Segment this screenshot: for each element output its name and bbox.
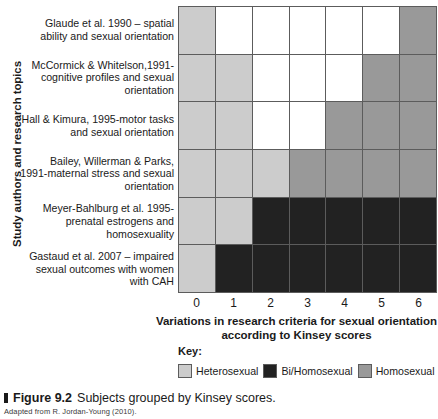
heatmap-cell bbox=[253, 150, 290, 197]
heatmap-cell bbox=[363, 245, 400, 292]
heatmap-cell bbox=[326, 198, 363, 245]
heatmap-cell bbox=[179, 198, 216, 245]
heatmap-cell bbox=[363, 198, 400, 245]
figure-title: Subjects grouped by Kinsey scores. bbox=[77, 391, 276, 405]
source-note: Adapted from R. Jordan-Young (2010). bbox=[4, 407, 137, 416]
x-tick-label: 4 bbox=[326, 296, 363, 314]
legend-swatch bbox=[178, 364, 192, 378]
row-label: Hall & Kimura, 1995-motor tasks and sexu… bbox=[20, 102, 176, 150]
figure-caption: Figure 9.2 Subjects grouped by Kinsey sc… bbox=[4, 391, 434, 405]
heatmap-row bbox=[179, 55, 436, 103]
legend-label: Homosexual bbox=[376, 365, 435, 377]
heatmap-cell bbox=[326, 245, 363, 292]
heatmap-cell bbox=[290, 55, 327, 102]
heatmap-cell bbox=[363, 7, 400, 54]
heatmap-cell bbox=[253, 102, 290, 149]
heatmap-cell bbox=[179, 55, 216, 102]
heatmap-cell bbox=[290, 102, 327, 149]
heatmap-cell bbox=[400, 102, 436, 149]
heatmap-cell bbox=[216, 198, 253, 245]
caption-marker-icon bbox=[4, 393, 8, 403]
heatmap-cell bbox=[216, 150, 253, 197]
heatmap-cell bbox=[253, 7, 290, 54]
heatmap-row bbox=[179, 7, 436, 55]
heatmap-cell bbox=[290, 198, 327, 245]
x-axis-tick-labels: 0123456 bbox=[178, 296, 437, 314]
legend: HeterosexualBi/HomosexualHomosexual bbox=[178, 362, 438, 380]
heatmap-cell bbox=[326, 150, 363, 197]
heatmap-row bbox=[179, 150, 436, 198]
heatmap-cell bbox=[253, 55, 290, 102]
heatmap-cell bbox=[363, 55, 400, 102]
x-tick-label: 3 bbox=[289, 296, 326, 314]
legend-item: Homosexual bbox=[358, 364, 435, 378]
x-tick-label: 6 bbox=[400, 296, 437, 314]
row-label: Glaude et al. 1990 – spatial ability and… bbox=[20, 6, 176, 54]
heatmap-row bbox=[179, 198, 436, 246]
heatmap-cell bbox=[179, 102, 216, 149]
heatmap-cell bbox=[179, 7, 216, 54]
legend-item: Heterosexual bbox=[178, 364, 258, 378]
x-tick-label: 0 bbox=[178, 296, 215, 314]
row-label: Meyer-Bahlburg et al. 1995-prenatal estr… bbox=[20, 197, 176, 245]
legend-label: Heterosexual bbox=[196, 365, 258, 377]
heatmap-cell bbox=[400, 7, 436, 54]
heatmap-cell bbox=[326, 55, 363, 102]
heatmap-cell bbox=[179, 150, 216, 197]
heatmap-cell bbox=[363, 150, 400, 197]
x-tick-label: 2 bbox=[252, 296, 289, 314]
row-label: McCormick & Whitelson,1991-cognitive pro… bbox=[20, 54, 176, 102]
heatmap-cell bbox=[216, 102, 253, 149]
heatmap-cell bbox=[400, 150, 436, 197]
heatmap-row bbox=[179, 102, 436, 150]
heatmap-cell bbox=[326, 102, 363, 149]
legend-item: Bi/Homosexual bbox=[263, 364, 352, 378]
heatmap-cell bbox=[400, 55, 436, 102]
heatmap-cell bbox=[253, 198, 290, 245]
heatmap-cell bbox=[363, 102, 400, 149]
row-label: Bailey, Willerman & Parks, 1991-maternal… bbox=[20, 149, 176, 197]
x-axis-title: Variations in research criteria for sexu… bbox=[155, 314, 438, 342]
row-label: Gastaud et al. 2007 – impaired sexual ou… bbox=[20, 245, 176, 293]
row-label-column: Glaude et al. 1990 – spatial ability and… bbox=[20, 6, 176, 293]
heatmap-cell bbox=[216, 55, 253, 102]
heatmap-cell bbox=[290, 7, 327, 54]
figure-number: Figure 9.2 bbox=[13, 391, 72, 405]
legend-heading: Key: bbox=[178, 345, 202, 357]
heatmap-cell bbox=[179, 245, 216, 292]
heatmap-cell bbox=[290, 150, 327, 197]
heatmap-cell bbox=[326, 7, 363, 54]
legend-swatch bbox=[358, 364, 372, 378]
figure-container: Study authors and research topics Glaude… bbox=[0, 0, 438, 419]
x-tick-label: 1 bbox=[215, 296, 252, 314]
heatmap-cell bbox=[216, 245, 253, 292]
heatmap-grid bbox=[178, 6, 437, 293]
legend-swatch bbox=[263, 364, 277, 378]
heatmap-cell bbox=[216, 7, 253, 54]
heatmap-cell bbox=[290, 245, 327, 292]
heatmap-row bbox=[179, 245, 436, 292]
heatmap-cell bbox=[400, 245, 436, 292]
heatmap-cell bbox=[253, 245, 290, 292]
heatmap-cell bbox=[400, 198, 436, 245]
legend-label: Bi/Homosexual bbox=[281, 365, 352, 377]
x-tick-label: 5 bbox=[363, 296, 400, 314]
